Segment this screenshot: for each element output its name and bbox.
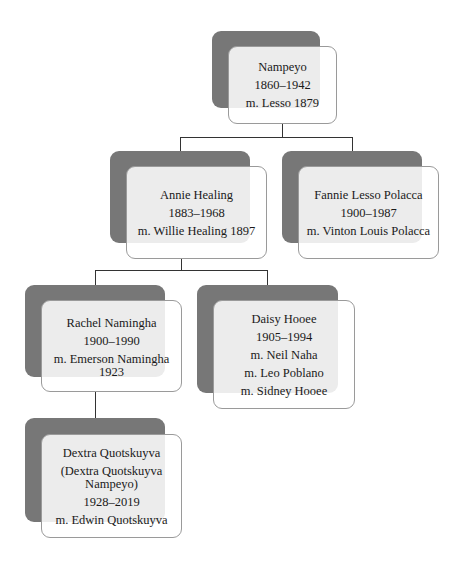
person-name: Daisy Hooee — [252, 310, 317, 328]
connector-gen3-horizontal — [95, 270, 268, 271]
connector-nampeyo-down — [282, 123, 283, 138]
person-years: 1928–2019 — [83, 493, 139, 511]
person-years: 1860–1942 — [254, 76, 310, 94]
connector-to-fannie — [352, 137, 353, 151]
person-marriage: m. Willie Healing 1897 — [138, 222, 255, 240]
person-name: Fannie Lesso Polacca — [314, 186, 422, 204]
node-card-annie-healing: Annie Healing 1883–1968 m. Willie Healin… — [126, 166, 267, 259]
person-marriage: m. Edwin Quotskuyva — [55, 511, 167, 529]
person-marriage: m. Lesso 1879 — [246, 94, 319, 112]
node-card-rachel-namingha: Rachel Namingha 1900–1990 m. Emerson Nam… — [41, 300, 182, 392]
person-name: Annie Healing — [160, 186, 233, 204]
person-marriage: m. Sidney Hooee — [241, 382, 327, 400]
person-years: 1900–1987 — [340, 204, 396, 222]
connector-to-annie — [180, 137, 181, 151]
connector-rachel-to-dextra — [95, 391, 96, 418]
node-card-dextra-quotskuyva: Dextra Quotskuyva (Dextra Quotskuyva Nam… — [41, 434, 182, 538]
person-marriage: m. Leo Poblano — [244, 364, 324, 382]
person-name: Dextra Quotskuyva — [63, 444, 161, 462]
connector-to-rachel — [95, 270, 96, 285]
person-alt-name: (Dextra Quotskuyva — [61, 465, 163, 478]
node-card-daisy-hooee: Daisy Hooee 1905–1994 m. Neil Naha m. Le… — [213, 300, 355, 409]
person-marriage: m. Neil Naha — [251, 346, 318, 364]
person-marriage-year: 1923 — [99, 366, 124, 379]
person-marriage: m. Vinton Louis Polacca — [307, 222, 430, 240]
person-years: 1900–1990 — [83, 332, 139, 350]
person-name: Rachel Namingha — [67, 314, 157, 332]
person-marriage: m. Emerson Namingha — [54, 353, 170, 366]
person-name: Nampeyo — [258, 58, 307, 76]
connector-gen2-horizontal — [180, 137, 353, 138]
connector-to-daisy — [267, 270, 268, 285]
person-years: 1905–1994 — [256, 328, 312, 346]
node-card-nampeyo: Nampeyo 1860–1942 m. Lesso 1879 — [228, 46, 337, 124]
node-card-fannie-lesso-polacca: Fannie Lesso Polacca 1900–1987 m. Vinton… — [298, 166, 439, 259]
person-alt-name-cont: Nampeyo) — [85, 478, 138, 491]
person-years: 1883–1968 — [168, 204, 224, 222]
